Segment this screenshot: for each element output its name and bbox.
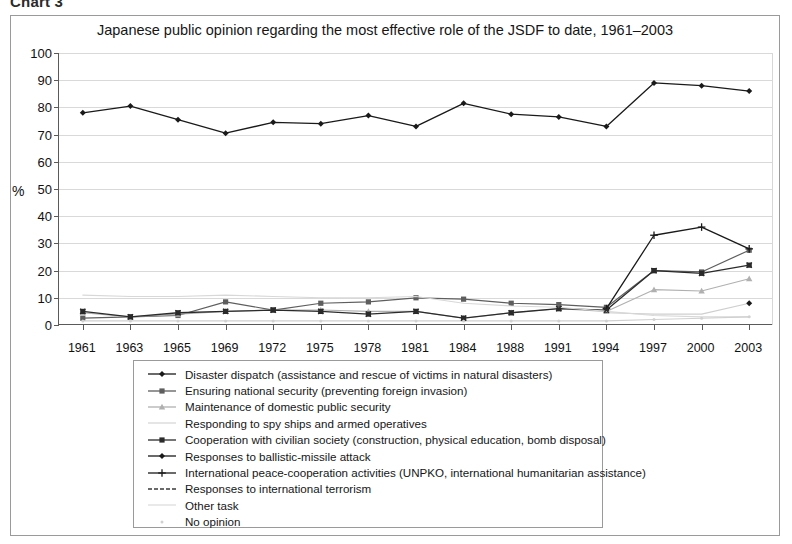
data-point-diamond	[556, 114, 562, 120]
legend-label: Responses to international terrorism	[182, 482, 371, 495]
y-axis-label: 40	[6, 210, 52, 223]
x-axis-label: 2003	[718, 341, 778, 355]
legend-item[interactable]: Ensuring national security (preventing f…	[134, 382, 602, 398]
chart-legend: Disaster dispatch (assistance and rescue…	[133, 360, 603, 528]
legend-item[interactable]: Responding to spy ships and armed operat…	[134, 415, 602, 431]
data-point-dot-faint	[272, 319, 275, 322]
data-point-diamond	[175, 117, 181, 123]
data-point-dot-faint	[161, 520, 164, 523]
chart-title: Japanese public opinion regarding the mo…	[0, 22, 770, 38]
series-markers	[746, 300, 752, 306]
x-axis-tick	[416, 325, 417, 330]
data-point-square	[223, 299, 228, 304]
y-axis-label: 0	[6, 319, 52, 332]
legend-marker-dot-faint-icon	[142, 515, 182, 529]
x-axis-tick	[606, 325, 607, 330]
y-axis-label: 100	[6, 47, 52, 60]
data-point-diamond	[746, 88, 752, 94]
data-point-dot-faint	[177, 319, 180, 322]
legend-item[interactable]: Responses to ballistic-missile attack	[134, 448, 602, 464]
legend-item[interactable]: No opinion	[134, 514, 602, 530]
y-axis-label: 30	[6, 237, 52, 250]
data-point-dot-faint	[700, 317, 703, 320]
legend-label: Disaster dispatch (assistance and rescue…	[182, 368, 552, 381]
y-axis-label: 10	[6, 292, 52, 305]
data-point-diamond	[508, 111, 514, 117]
x-axis-tick	[749, 325, 750, 330]
legend-marker-square-dark-icon	[142, 433, 182, 447]
data-point-square	[159, 388, 164, 393]
plot-area	[58, 53, 772, 325]
data-point-diamond	[127, 103, 133, 109]
series-line	[606, 227, 749, 309]
data-point-plus	[650, 231, 658, 239]
legend-label: Responses to ballistic-missile attack	[182, 450, 371, 463]
data-point-diamond	[223, 130, 229, 136]
data-point-square	[509, 301, 514, 306]
x-axis-tick	[178, 325, 179, 330]
data-point-dot-faint	[748, 315, 751, 318]
x-axis-tick	[130, 325, 131, 330]
series-markers	[80, 80, 752, 136]
series-line	[83, 250, 749, 318]
legend-marker-dash-icon	[142, 482, 182, 496]
data-point-diamond	[159, 453, 165, 459]
data-point-square-dark	[159, 437, 164, 442]
y-axis-label: 70	[6, 129, 52, 142]
data-point-dot-faint	[415, 319, 418, 322]
legend-label: Maintenance of domestic public security	[182, 400, 391, 413]
data-point-triangle	[746, 276, 752, 282]
legend-label: Responding to spy ships and armed operat…	[182, 417, 427, 430]
x-axis-tick	[654, 325, 655, 330]
legend-marker-line-icon	[142, 416, 182, 430]
data-point-dot-faint	[81, 319, 84, 322]
figure-caption: Chart 3	[10, 0, 63, 10]
data-point-diamond	[365, 113, 371, 119]
data-point-square	[318, 301, 323, 306]
legend-label: International peace-cooperation activiti…	[182, 466, 646, 479]
x-axis-tick	[702, 325, 703, 330]
legend-label: Cooperation with civilian society (const…	[182, 433, 606, 446]
data-point-diamond	[270, 119, 276, 125]
legend-marker-plus-icon	[142, 466, 182, 480]
legend-item[interactable]: Responses to international terrorism	[134, 481, 602, 497]
chart-page: Chart 3 Japanese public opinion regardin…	[0, 0, 792, 544]
x-axis-tick	[511, 325, 512, 330]
data-point-diamond	[80, 110, 86, 116]
legend-marker-line-faint-icon	[142, 498, 182, 512]
y-axis-tick	[54, 325, 59, 326]
data-point-square	[461, 297, 466, 302]
x-axis-tick	[559, 325, 560, 330]
series-layer	[59, 53, 773, 325]
data-point-plus	[158, 469, 166, 477]
data-point-plus	[698, 223, 706, 231]
x-axis-tick	[368, 325, 369, 330]
data-point-diamond	[461, 100, 467, 106]
legend-marker-triangle-icon	[142, 400, 182, 414]
x-axis-tick	[464, 325, 465, 330]
data-point-dot-faint	[605, 319, 608, 322]
data-point-diamond	[699, 83, 705, 89]
legend-marker-diamond-icon	[142, 449, 182, 463]
data-point-dot-faint	[653, 318, 656, 321]
legend-item[interactable]: Cooperation with civilian society (const…	[134, 432, 602, 448]
legend-label: Other task	[182, 499, 238, 512]
data-point-dot-faint	[557, 319, 560, 322]
data-point-dot-faint	[319, 319, 322, 322]
legend-item[interactable]: Disaster dispatch (assistance and rescue…	[134, 366, 602, 382]
x-axis-tick	[226, 325, 227, 330]
y-axis-label: 20	[6, 265, 52, 278]
data-point-dot-faint	[224, 319, 227, 322]
data-point-dot-faint	[367, 319, 370, 322]
y-axis-label: 50	[6, 183, 52, 196]
data-point-diamond	[746, 300, 752, 306]
x-axis-tick	[321, 325, 322, 330]
y-axis-label: 90	[6, 74, 52, 87]
legend-item[interactable]: International peace-cooperation activiti…	[134, 464, 602, 480]
data-point-diamond	[413, 123, 419, 129]
y-axis-label: 60	[6, 156, 52, 169]
x-axis-tick	[273, 325, 274, 330]
data-point-dot-faint	[129, 319, 132, 322]
legend-item[interactable]: Other task	[134, 497, 602, 513]
legend-item[interactable]: Maintenance of domestic public security	[134, 399, 602, 415]
